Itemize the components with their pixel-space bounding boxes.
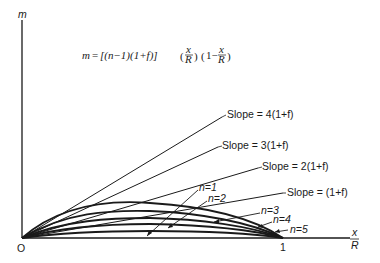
svg-text:): ) bbox=[227, 50, 231, 63]
curve-label-n4: n=4 bbox=[273, 213, 291, 225]
eq-frac1-den: R bbox=[184, 53, 192, 65]
slope-label-4: Slope = 4(1+f) bbox=[227, 108, 294, 120]
slope-label-2: Slope = 2(1+f) bbox=[262, 160, 329, 172]
curve-label-n2: n=2 bbox=[208, 192, 226, 204]
equation: m = [(n−1)(1+f)] ( x R ) ( 1− x R ) bbox=[82, 43, 231, 65]
x-axis-label-num: x bbox=[351, 226, 358, 238]
curves bbox=[22, 202, 283, 238]
origin-label: O bbox=[17, 242, 25, 254]
x-tick-label: 1 bbox=[280, 241, 286, 253]
diagram-canvas: Slope = 4(1+f) Slope = 3(1+f) Slope = 2(… bbox=[0, 0, 380, 263]
slope-label-1: Slope = (1+f) bbox=[287, 186, 348, 198]
eq-bracket: [(n−1)(1+f)] bbox=[100, 49, 158, 62]
slope-label-3: Slope = 3(1+f) bbox=[222, 139, 289, 151]
svg-text:(: ( bbox=[180, 50, 184, 63]
curve-n5 bbox=[22, 231, 283, 238]
svg-text:=: = bbox=[92, 49, 98, 61]
eq-factor2-prefix: 1− bbox=[206, 49, 218, 61]
slope-label-leaders bbox=[218, 115, 286, 193]
x-axis-label-den: R bbox=[351, 239, 359, 251]
eq-frac2-den: R bbox=[217, 53, 225, 65]
eq-lhs: m bbox=[82, 49, 90, 61]
y-axis-label: m bbox=[18, 8, 27, 20]
curve-label-n5: n=5 bbox=[290, 223, 308, 235]
svg-text:(: ( bbox=[201, 50, 205, 63]
svg-text:): ) bbox=[194, 50, 198, 63]
